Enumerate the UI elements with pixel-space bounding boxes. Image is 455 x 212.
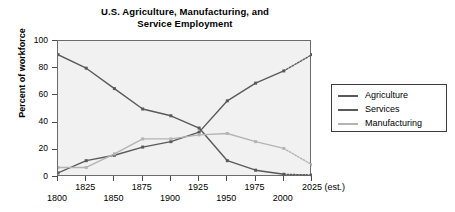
data-point-marker [141, 108, 144, 111]
data-point-marker [226, 132, 229, 135]
y-tick-label: 20 [22, 144, 48, 153]
series-line-agriculture [284, 174, 312, 175]
chart-title-line-2: Service Employment [137, 18, 232, 29]
data-point-marker [141, 137, 144, 140]
data-point-marker [198, 131, 201, 134]
data-point-marker [169, 137, 172, 140]
data-point-marker [85, 67, 88, 70]
y-tick-label: 80 [22, 63, 48, 72]
legend-label: Services [365, 105, 400, 114]
legend-item-agriculture[interactable]: Agriculture [338, 89, 408, 102]
legend-swatch-icon [338, 109, 358, 111]
data-point-marker [198, 127, 201, 130]
x-tick-label: 1925 [188, 183, 208, 192]
x-tick-label: 1950 [216, 194, 236, 203]
data-point-marker [58, 53, 60, 56]
plot-lines [58, 41, 312, 177]
data-point-marker [254, 140, 257, 143]
data-point-marker [254, 169, 257, 172]
data-point-marker [85, 159, 88, 162]
x-tick-mark [85, 176, 86, 181]
legend: AgricultureServicesManufacturing [331, 84, 447, 132]
data-point-marker [311, 53, 313, 56]
x-tick-label: 2000 [273, 194, 293, 203]
x-tick-mark [283, 176, 284, 181]
series-line-services [284, 55, 312, 71]
series-line-services [58, 71, 284, 173]
x-tick-mark [57, 176, 58, 181]
y-tick-label: 60 [22, 90, 48, 99]
legend-label: Manufacturing [365, 119, 422, 128]
x-tick-mark [255, 176, 256, 181]
data-point-marker [226, 99, 229, 102]
chart-root: U.S. Agriculture, Manufacturing, and Ser… [0, 0, 455, 212]
x-tick-mark [198, 176, 199, 181]
data-point-marker [113, 152, 116, 155]
data-point-marker [113, 87, 116, 90]
data-point-marker [198, 133, 201, 136]
y-tick-label: 0 [22, 172, 48, 181]
data-point-marker [85, 166, 88, 169]
data-point-marker [58, 166, 60, 169]
legend-swatch-icon [338, 123, 358, 125]
y-tick-label: 100 [22, 36, 48, 45]
data-point-marker [169, 140, 172, 143]
x-tick-mark [170, 176, 171, 181]
x-tick-label: 2025 (est.) [302, 183, 345, 192]
data-point-marker [58, 171, 60, 174]
data-point-marker [226, 159, 229, 162]
data-point-marker [311, 163, 313, 166]
data-point-marker [282, 147, 285, 150]
series-line-manufacturing [284, 148, 312, 164]
data-point-marker [254, 82, 257, 85]
x-tick-label: 1850 [103, 194, 123, 203]
x-tick-mark [226, 176, 227, 181]
y-axis-title: Percent of workforce [17, 13, 27, 133]
x-tick-mark [113, 176, 114, 181]
legend-item-services[interactable]: Services [338, 103, 400, 116]
y-tick-label: 40 [22, 117, 48, 126]
legend-label: Agriculture [365, 91, 408, 100]
x-tick-mark [311, 176, 312, 181]
x-tick-label: 1900 [160, 194, 180, 203]
x-tick-label: 1800 [47, 194, 67, 203]
legend-swatch-icon [338, 95, 358, 97]
x-tick-label: 1825 [75, 183, 95, 192]
x-tick-label: 1875 [132, 183, 152, 192]
chart-title: U.S. Agriculture, Manufacturing, and Ser… [60, 6, 310, 29]
plot-area [57, 40, 311, 176]
x-tick-mark [142, 176, 143, 181]
data-point-marker [282, 69, 285, 72]
legend-item-manufacturing[interactable]: Manufacturing [338, 117, 422, 130]
chart-title-line-1: U.S. Agriculture, Manufacturing, and [101, 6, 269, 17]
x-tick-label: 1975 [245, 183, 265, 192]
data-point-marker [141, 146, 144, 149]
data-point-marker [169, 114, 172, 117]
